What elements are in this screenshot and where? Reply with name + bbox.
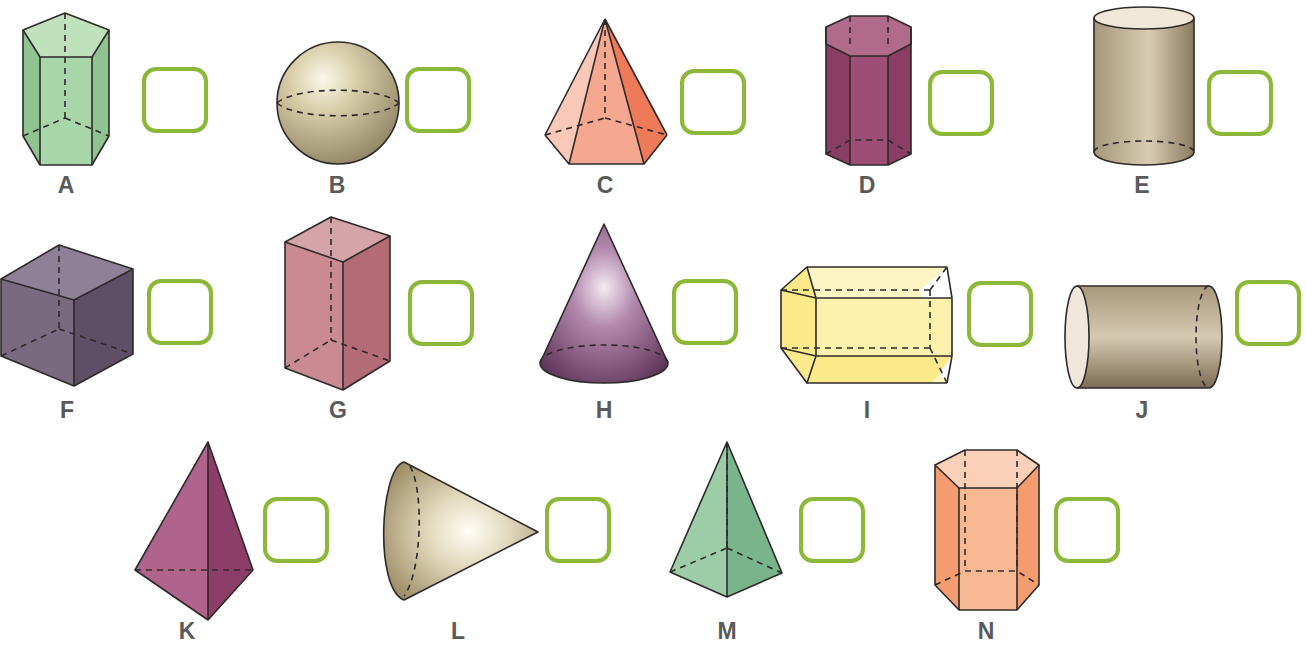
label-g: G [318, 398, 358, 422]
answer-box-i[interactable] [967, 281, 1033, 347]
shape-e-cylinder [1092, 5, 1196, 167]
answer-box-h[interactable] [672, 279, 738, 345]
shape-g-rectangular-prism [284, 216, 394, 392]
answer-box-n[interactable] [1054, 497, 1120, 563]
label-e: E [1122, 173, 1162, 197]
shape-i-hexagonal-prism-horizontal [780, 264, 956, 388]
label-l: L [438, 619, 478, 643]
shape-l-cone-horizontal [378, 460, 540, 602]
label-i: I [847, 398, 887, 422]
answer-box-f[interactable] [147, 279, 213, 345]
label-b: B [317, 173, 357, 197]
label-a: A [46, 173, 86, 197]
answer-box-a[interactable] [142, 67, 208, 133]
shape-c-hexagonal-pyramid [543, 17, 671, 167]
answer-box-j[interactable] [1235, 280, 1301, 346]
answer-box-d[interactable] [928, 70, 994, 136]
label-k: K [167, 619, 207, 643]
label-c: C [585, 173, 625, 197]
shape-k-triangular-pyramid [133, 440, 255, 622]
answer-box-m[interactable] [799, 497, 865, 563]
answer-box-k[interactable] [263, 497, 329, 563]
shape-d-hexagonal-prism [824, 14, 914, 166]
shape-m-square-pyramid [668, 440, 786, 600]
shape-j-cylinder-horizontal [1064, 284, 1224, 390]
answer-box-g[interactable] [408, 280, 474, 346]
label-j: J [1122, 398, 1162, 422]
answer-box-e[interactable] [1207, 70, 1273, 136]
shape-b-sphere [276, 40, 400, 166]
shape-h-cone [538, 222, 670, 386]
label-m: M [707, 619, 747, 643]
label-f: F [47, 398, 87, 422]
shape-a-pentagonal-prism [20, 10, 116, 170]
answer-box-l[interactable] [545, 497, 611, 563]
label-h: H [584, 398, 624, 422]
answer-box-b[interactable] [405, 67, 471, 133]
label-n: N [966, 619, 1006, 643]
shape-n-hexagonal-prism [933, 448, 1043, 612]
shape-f-cube [0, 244, 136, 388]
answer-box-c[interactable] [680, 69, 746, 135]
label-d: D [847, 173, 887, 197]
